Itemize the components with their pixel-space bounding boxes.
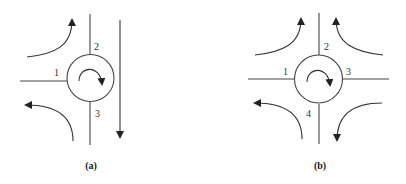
panel-a: 1 2 3 (a) [20,14,120,172]
leg-label-1: 1 [283,66,288,77]
roundabout-circle [67,55,114,102]
panel-a-caption: (a) [85,160,97,172]
leg-label-4: 4 [306,108,311,119]
right-to-up-turn-arrow-icon [336,19,383,55]
clockwise-rotation-arrow-icon [79,69,102,84]
panel-b: 1 2 3 4 (b) [248,13,389,172]
clockwise-rotation-arrow-icon [307,70,330,85]
left-to-up-turn-arrow-icon [27,20,72,57]
panel-b-caption: (b) [314,160,326,172]
roundabout-circle [295,55,343,103]
leg-label-1: 1 [54,67,59,78]
leg-label-2: 2 [324,41,329,52]
leg-label-2: 2 [94,41,99,52]
right-to-down-turn-arrow-icon [337,103,382,140]
leg-label-3: 3 [346,66,351,77]
leg-label-3: 3 [95,108,100,119]
roundabout-figure: 1 2 3 (a) 1 2 3 [0,0,406,184]
down-to-left-turn-arrow-icon [26,105,73,141]
down-to-left-turn-arrow-icon [255,103,302,139]
left-to-up-turn-arrow-icon [255,19,301,55]
